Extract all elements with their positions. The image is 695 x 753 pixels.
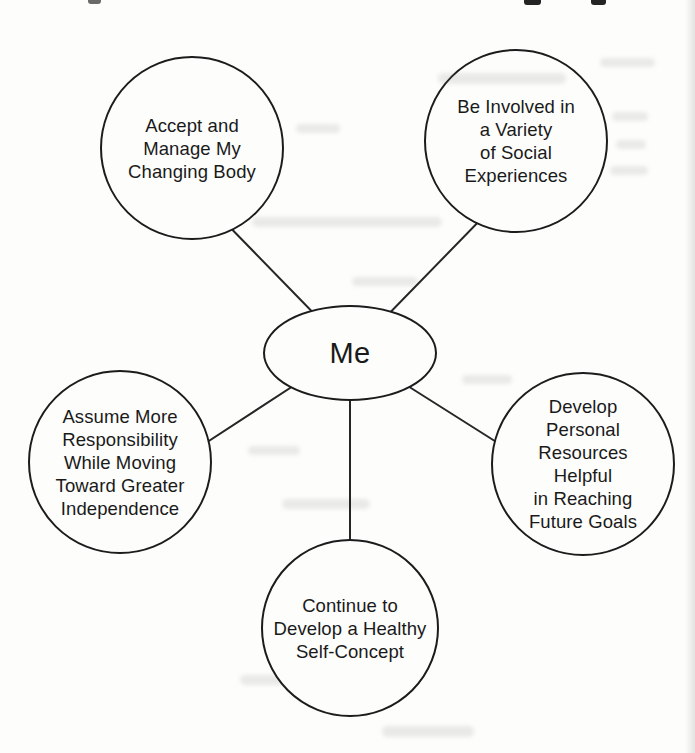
cropped-text-fragment bbox=[591, 0, 606, 5]
node-self-concept-label: Continue to Develop a Healthy Self-Conce… bbox=[274, 594, 427, 663]
node-me: Me bbox=[263, 305, 437, 401]
bleed-smudge bbox=[438, 73, 566, 84]
bleed-smudge bbox=[610, 166, 648, 175]
page-edge-shadow bbox=[685, 0, 695, 753]
node-independence-label: Assume More Responsibility While Moving … bbox=[56, 405, 185, 520]
node-changing-body: Accept and Manage My Changing Body bbox=[100, 56, 284, 240]
node-personal-resources: Develop Personal Resources Helpful in Re… bbox=[491, 372, 675, 556]
node-self-concept: Continue to Develop a Healthy Self-Conce… bbox=[261, 539, 439, 717]
bleed-smudge bbox=[612, 112, 648, 121]
bleed-smudge bbox=[616, 140, 646, 149]
node-me-label: Me bbox=[330, 337, 371, 369]
node-independence: Assume More Responsibility While Moving … bbox=[28, 370, 212, 554]
cropped-text-fragment bbox=[524, 0, 541, 5]
cropped-text-fragment bbox=[88, 0, 101, 4]
node-social-experiences-label: Be Involved in a Variety of Social Exper… bbox=[457, 95, 575, 187]
node-personal-resources-label: Develop Personal Resources Helpful in Re… bbox=[529, 395, 637, 533]
scanned-page: Accept and Manage My Changing Body Be In… bbox=[0, 0, 695, 753]
node-changing-body-label: Accept and Manage My Changing Body bbox=[128, 114, 256, 183]
